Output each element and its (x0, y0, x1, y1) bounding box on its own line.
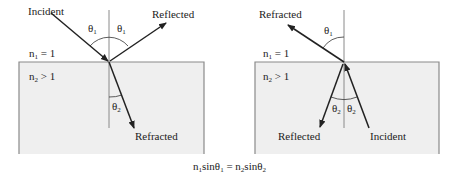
left-theta1-reflected-label: θ1 (117, 22, 126, 38)
n1-relation: = 1 (38, 47, 55, 59)
right-reflected-label: Reflected (278, 130, 320, 142)
theta-subscript: 1 (93, 28, 97, 36)
n1-relation: = 1 (272, 47, 289, 59)
theta-subscript: 1 (122, 28, 126, 36)
right-n1-label: n1 = 1 (263, 47, 289, 63)
snells-law-equation: n1sinθ1 = n2sinθ2 (0, 160, 459, 174)
right-theta2-incident-label: θ2 (347, 102, 356, 118)
left-n2-label: n2 > 1 (29, 70, 55, 86)
right-theta2-reflected-label: θ2 (332, 102, 341, 118)
right-refracted-ray (288, 25, 344, 62)
optics-diagram-graphics (0, 0, 459, 175)
left-theta1-incident-label: θ1 (88, 22, 97, 38)
right-incident-label: Incident (370, 130, 406, 142)
theta-subscript: 2 (117, 106, 121, 114)
n2-relation: > 1 (272, 70, 289, 82)
right-n2-label: n2 > 1 (263, 70, 289, 86)
theta-subscript: 1 (329, 30, 333, 38)
left-reflected-label: Reflected (152, 8, 194, 20)
eq-sin-theta1: sinθ (202, 160, 220, 172)
left-refracted-label: Refracted (135, 130, 178, 142)
left-incident-label: Incident (28, 5, 64, 17)
left-incident-ray (51, 13, 108, 61)
eq-sin-theta2: sinθ (244, 160, 262, 172)
right-refracted-label: Refracted (259, 8, 302, 20)
theta-subscript: 2 (337, 108, 341, 116)
eq-equals: = (224, 160, 236, 172)
left-theta2-label: θ2 (112, 100, 121, 116)
left-n1-label: n1 = 1 (29, 47, 55, 63)
eq-theta2-subscript: 2 (262, 166, 266, 174)
right-theta1-label: θ1 (324, 24, 333, 40)
n2-relation: > 1 (38, 70, 55, 82)
theta-subscript: 2 (352, 108, 356, 116)
